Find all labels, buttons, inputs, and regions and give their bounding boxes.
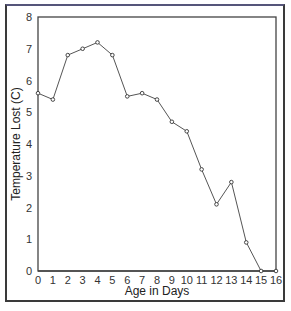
data-point [81,47,85,51]
data-point [125,95,129,99]
x-tick-label: 3 [80,274,86,286]
x-tick-label: 14 [240,274,252,286]
y-tick-label: 6 [26,75,32,87]
plot-border [38,17,276,271]
y-tick-label: 0 [26,265,32,277]
x-tick-label: 0 [35,274,41,286]
data-point [170,120,174,124]
y-tick-label: 7 [26,43,32,55]
x-tick-label: 2 [65,274,71,286]
y-tick-label: 4 [26,138,32,150]
data-point [244,241,248,245]
x-tick-label: 16 [270,274,282,286]
data-point [96,41,100,45]
data-point [111,53,115,57]
data-point [215,203,219,207]
x-tick-label: 1 [50,274,56,286]
data-point [140,91,144,95]
x-tick-label: 5 [109,274,115,286]
data-point [274,269,278,273]
data-point [259,269,263,273]
data-point [155,98,159,102]
x-tick-label: 12 [210,274,222,286]
y-tick-label: 1 [26,233,32,245]
y-tick-label: 2 [26,202,32,214]
x-tick-label: 15 [255,274,267,286]
y-axis-ticks: 012345678 [26,11,32,277]
x-tick-label: 4 [94,274,100,286]
plot-area [38,17,276,271]
line-chart: 012345678 012345678910111213141516 Age i… [0,0,291,311]
y-tick-label: 8 [26,11,32,23]
data-point [200,168,204,172]
data-point [230,180,234,184]
data-point [51,98,55,102]
data-point [36,91,40,95]
data-point [66,53,70,57]
x-tick-label: 11 [196,274,207,286]
x-axis-title: Age in Days [125,284,190,298]
data-point [185,130,189,134]
x-tick-label: 13 [225,274,237,286]
y-axis-title: Temperature Lost (C) [9,87,23,200]
y-tick-label: 3 [26,170,32,182]
y-tick-label: 5 [26,106,32,118]
